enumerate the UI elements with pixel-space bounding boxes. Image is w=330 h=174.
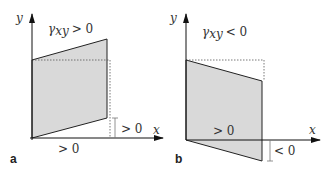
gamma-label-b: γxy< 0	[202, 25, 247, 41]
panel-label-a: a	[10, 152, 17, 166]
y-axis-label-b: y	[169, 11, 177, 25]
sheared-element-a	[32, 39, 107, 138]
side-label-b: < 0	[274, 144, 296, 158]
bottom-label-b: > 0	[213, 124, 235, 138]
shear-strain-diagram: y x γxy> 0 > 0 > 0 a y x γxy< 0 < 0 > 0 …	[0, 0, 330, 174]
side-label-a: > 0	[121, 122, 143, 136]
panel-a: y x γxy> 0 > 0 > 0 a	[10, 11, 163, 166]
panel-label-b: b	[175, 152, 182, 166]
panel-b: y x γxy< 0 < 0 > 0 b	[169, 11, 320, 166]
y-axis-label-a: y	[15, 11, 23, 25]
x-axis-label-a: x	[153, 123, 160, 137]
x-axis-label-b: x	[309, 123, 316, 137]
sheared-element-b	[186, 60, 262, 161]
bottom-label-a: > 0	[58, 142, 80, 156]
gamma-label-a: γxy> 0	[48, 22, 93, 38]
